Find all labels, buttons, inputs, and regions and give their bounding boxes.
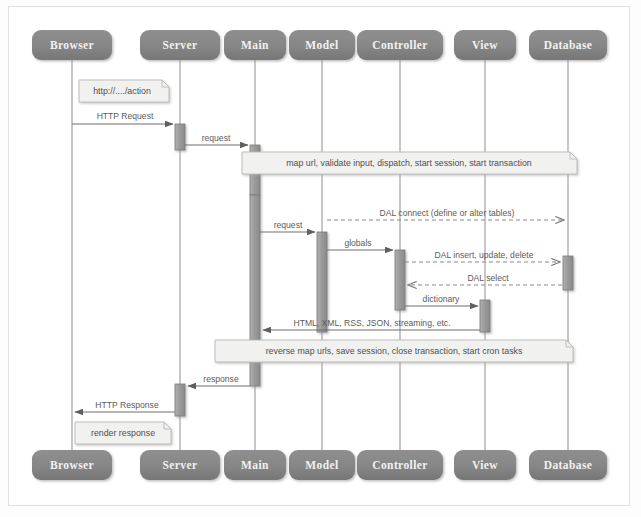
message-dictionary: dictionary xyxy=(405,294,478,306)
participant-view-bottom[interactable]: View xyxy=(454,450,516,480)
sequence-diagram-canvas: HTTP Request request request DAL connect… xyxy=(0,0,641,517)
participant-controller-bottom-label: Controller xyxy=(372,459,428,471)
sequence-diagram-svg: HTTP Request request request DAL connect… xyxy=(0,0,641,517)
message-label-render-formats: HTML, XML, RSS, JSON, streaming, etc. xyxy=(293,318,450,328)
participant-database-bottom-label: Database xyxy=(544,459,593,471)
message-label-dictionary: dictionary xyxy=(423,294,460,304)
activation-bar-view-1 xyxy=(480,300,490,332)
participant-view-bottom-label: View xyxy=(472,459,498,471)
note-reverse-map: reverse map urls, save session, close tr… xyxy=(215,340,573,362)
message-dal-select: DAL select xyxy=(408,273,562,285)
message-http-request: HTTP Request xyxy=(72,111,173,124)
note-render-response-label: render response xyxy=(91,428,155,438)
participant-main-bottom[interactable]: Main xyxy=(224,450,286,480)
message-label-response-1: response xyxy=(203,374,239,384)
activation-bar-controller-1 xyxy=(395,250,405,310)
participant-server-top[interactable]: Server xyxy=(140,30,220,60)
participant-model-top[interactable]: Model xyxy=(289,30,355,60)
note-url: http://..../action xyxy=(79,80,169,102)
participant-view-top[interactable]: View xyxy=(454,30,516,60)
participant-view-top-label: View xyxy=(472,39,498,51)
participant-browser-top-label: Browser xyxy=(50,39,94,51)
message-request-2: request xyxy=(260,220,315,232)
participant-browser-bottom-label: Browser xyxy=(50,459,94,471)
participant-boxes-bottom: Browser Server Main Model Controller Vie xyxy=(32,450,607,480)
participant-browser-bottom[interactable]: Browser xyxy=(32,450,112,480)
note-map-url-label: map url, validate input, dispatch, start… xyxy=(286,158,532,168)
message-label-dal-connect: DAL connect (define or alter tables) xyxy=(380,208,515,218)
participant-server-top-label: Server xyxy=(163,39,198,51)
participant-model-bottom-label: Model xyxy=(305,459,338,471)
note-url-label: http://..../action xyxy=(93,86,151,96)
participant-server-bottom[interactable]: Server xyxy=(140,450,220,480)
activation-bar-model-1 xyxy=(317,232,327,332)
participant-main-top-label: Main xyxy=(241,39,269,51)
participant-controller-top[interactable]: Controller xyxy=(357,30,443,60)
message-render-formats: HTML, XML, RSS, JSON, streaming, etc. xyxy=(263,318,480,330)
message-label-http-request: HTTP Request xyxy=(97,111,154,121)
message-dal-insert-update-delete: DAL insert, update, delete xyxy=(405,250,560,262)
participant-controller-bottom[interactable]: Controller xyxy=(357,450,443,480)
message-response-1: response xyxy=(188,374,250,386)
activation-bar-main-2 xyxy=(250,195,260,340)
participant-browser-top[interactable]: Browser xyxy=(32,30,112,60)
participant-database-bottom[interactable]: Database xyxy=(529,450,607,480)
note-render-response: render response xyxy=(75,422,171,444)
participant-database-top-label: Database xyxy=(544,39,593,51)
participant-database-top[interactable]: Database xyxy=(529,30,607,60)
message-label-request-1: request xyxy=(202,133,231,143)
participant-main-top[interactable]: Main xyxy=(224,30,286,60)
participant-server-bottom-label: Server xyxy=(163,459,198,471)
participant-controller-top-label: Controller xyxy=(372,39,428,51)
participant-model-bottom[interactable]: Model xyxy=(289,450,355,480)
message-label-http-response: HTTP Response xyxy=(95,400,159,410)
note-reverse-map-label: reverse map urls, save session, close tr… xyxy=(266,346,523,356)
activation-bar-database-1 xyxy=(563,256,573,290)
note-map-url: map url, validate input, dispatch, start… xyxy=(242,152,577,174)
message-globals: globals xyxy=(327,238,393,250)
message-label-dal-select: DAL select xyxy=(467,273,509,283)
message-label-request-2: request xyxy=(274,220,303,230)
participant-model-top-label: Model xyxy=(305,39,338,51)
participant-main-bottom-label: Main xyxy=(241,459,269,471)
message-label-globals: globals xyxy=(344,238,371,248)
message-http-response: HTTP Response xyxy=(75,400,175,412)
message-dal-connect: DAL connect (define or alter tables) xyxy=(327,208,564,220)
message-request-1: request xyxy=(185,133,248,145)
activation-bar-server-2 xyxy=(175,384,185,416)
message-label-dal-insert-update-delete: DAL insert, update, delete xyxy=(434,250,533,260)
participant-boxes-top: Browser Server Main Model Controller Vie xyxy=(32,30,607,60)
activation-bar-server-1 xyxy=(175,124,185,150)
